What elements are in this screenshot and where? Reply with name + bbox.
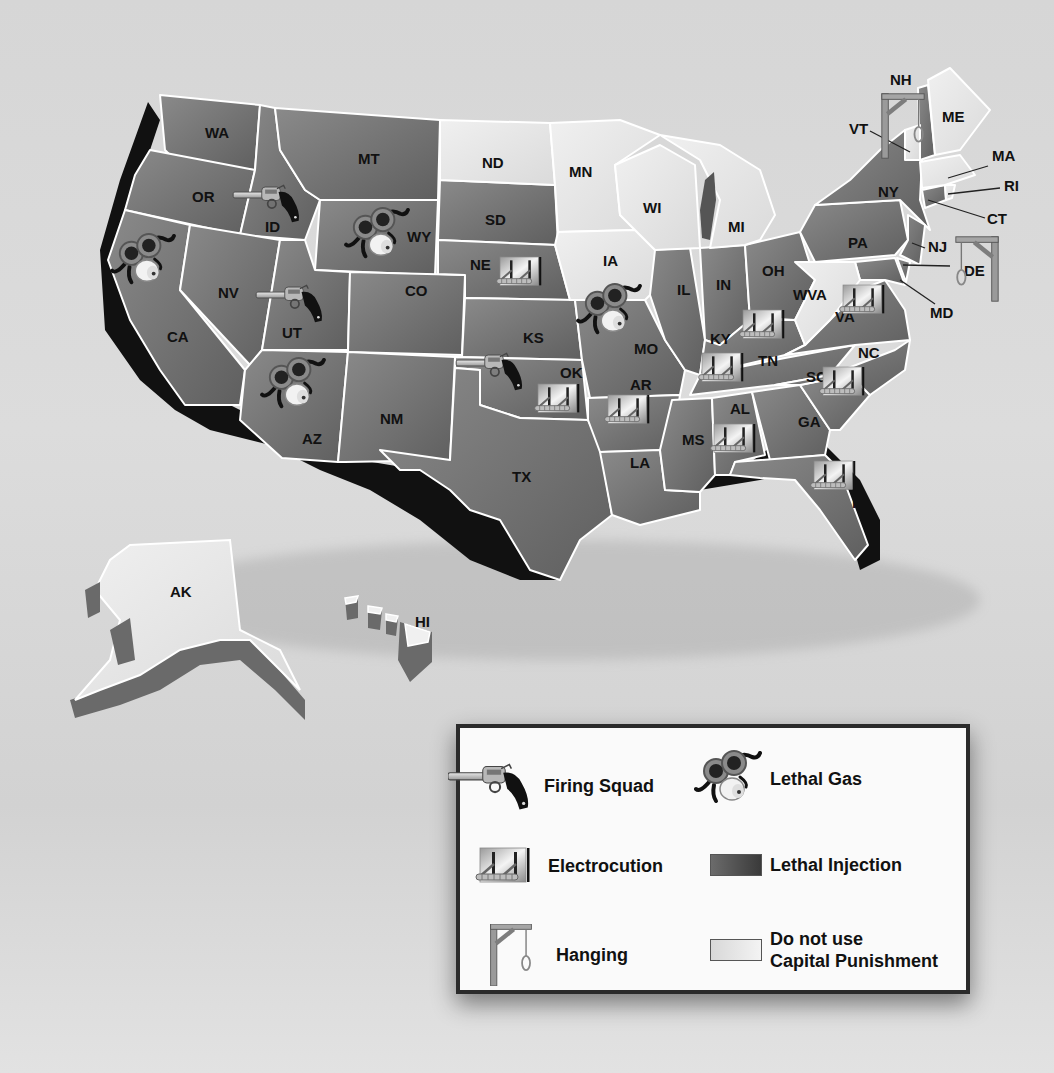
label-az: AZ	[302, 430, 322, 447]
electrocution-icon-ne	[497, 257, 542, 285]
label-wy: WY	[407, 228, 431, 245]
legend-item-hanging: Hanging	[488, 924, 628, 986]
label-sd: SD	[485, 211, 506, 228]
state-ma[interactable]	[920, 155, 975, 188]
state-pa[interactable]	[800, 200, 908, 262]
legend-label-firing-squad: Firing Squad	[544, 775, 654, 797]
electrocution-icon-fl	[811, 461, 856, 489]
legend-label-line1: Do not use	[770, 928, 938, 950]
label-in: IN	[716, 276, 731, 293]
lethal-injection-swatch	[710, 854, 762, 876]
label-md: MD	[930, 304, 953, 321]
label-hi: HI	[415, 613, 430, 630]
label-vt: VT	[849, 120, 868, 137]
label-ct: CT	[987, 210, 1007, 227]
label-al: AL	[730, 400, 750, 417]
label-ri: RI	[1004, 177, 1019, 194]
electrocution-icon-sc	[820, 367, 865, 395]
label-ma: MA	[992, 147, 1015, 164]
legend-label-electrocution: Electrocution	[548, 855, 663, 877]
label-tn: TN	[758, 352, 778, 369]
gallows-icon	[488, 924, 534, 986]
label-wa: WA	[205, 124, 229, 141]
label-nh: NH	[890, 71, 912, 88]
label-ca: CA	[167, 328, 189, 345]
label-ia: IA	[603, 252, 618, 269]
label-wi: WI	[643, 199, 661, 216]
legend: Firing Squad Lethal Gas Electrocution Le…	[456, 724, 970, 994]
label-ny: NY	[878, 183, 899, 200]
label-mt: MT	[358, 150, 380, 167]
revolver-icon	[448, 760, 540, 812]
label-fl: FL	[852, 494, 870, 511]
label-ak: AK	[170, 583, 192, 600]
legend-label-line2: Capital Punishment	[770, 950, 938, 972]
label-ky: KY	[710, 330, 731, 347]
legend-label-lethal-injection: Lethal Injection	[770, 854, 902, 876]
label-nj: NJ	[928, 238, 947, 255]
label-co: CO	[405, 282, 428, 299]
electrocution-icon-ok	[535, 384, 580, 412]
legend-item-no-capital-punishment: Do not use Capital Punishment	[710, 928, 938, 972]
electrocution-icon-ky	[740, 310, 785, 338]
label-tx: TX	[512, 468, 531, 485]
label-la: LA	[630, 454, 650, 471]
legend-item-firing-squad: Firing Squad	[448, 760, 654, 812]
label-ut: UT	[282, 324, 302, 341]
legend-item-electrocution: Electrocution	[474, 846, 663, 886]
label-il: IL	[677, 281, 690, 298]
legend-label-hanging: Hanging	[556, 944, 628, 966]
state-vt[interactable]	[905, 125, 920, 160]
label-or: OR	[192, 188, 215, 205]
label-pa: PA	[848, 234, 868, 251]
state-nm[interactable]	[338, 352, 455, 462]
label-ga: GA	[798, 413, 821, 430]
state-ks[interactable]	[462, 298, 582, 360]
electrocution-icon-ar	[605, 395, 650, 423]
electrocution-icon-al	[711, 424, 756, 452]
label-oh: OH	[762, 262, 785, 279]
label-wva: WVA	[793, 286, 827, 303]
label-de: DE	[964, 262, 985, 279]
label-ok: OK	[560, 364, 583, 381]
legend-label-lethal-gas: Lethal Gas	[770, 768, 862, 790]
label-mi: MI	[728, 218, 745, 235]
legend-item-lethal-gas: Lethal Gas	[694, 748, 862, 810]
legend-label-no-capital-punishment: Do not use Capital Punishment	[770, 928, 938, 972]
label-ar: AR	[630, 376, 652, 393]
label-ks: KS	[523, 329, 544, 346]
label-mn: MN	[569, 163, 592, 180]
gas-mask-icon	[694, 748, 764, 810]
label-ms: MS	[682, 431, 705, 448]
electrocution-icon-va	[840, 285, 885, 313]
label-me: ME	[942, 108, 965, 125]
label-nv: NV	[218, 284, 239, 301]
no-capital-punishment-swatch	[710, 939, 762, 961]
label-ne: NE	[470, 256, 491, 273]
label-nc: NC	[858, 344, 880, 361]
legend-item-lethal-injection: Lethal Injection	[710, 854, 902, 876]
electrocution-icon-tn	[699, 353, 744, 381]
label-mo: MO	[634, 340, 658, 357]
label-nm: NM	[380, 410, 403, 427]
electric-chair-icon	[474, 846, 534, 886]
state-ri[interactable]	[945, 185, 955, 200]
state-nd[interactable]	[440, 120, 555, 185]
label-id: ID	[265, 218, 280, 235]
label-nd: ND	[482, 154, 504, 171]
